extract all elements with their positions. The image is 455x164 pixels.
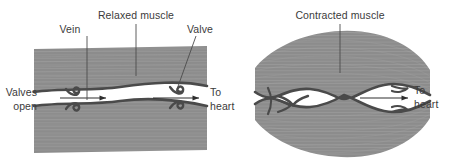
blood-flow-arrow	[360, 95, 408, 100]
valve-closed-distal	[392, 86, 408, 112]
figure-root: Relaxed muscle Vein Valve Valves open To…	[0, 0, 455, 164]
contracted-muscle-group: Contracted muscle To heart	[250, 9, 438, 157]
contracted-lower-muscle	[250, 95, 435, 157]
label-to-heart-right-line1: To	[414, 84, 425, 96]
contracted-upper-muscle	[250, 31, 435, 101]
label-vein: Vein	[60, 23, 81, 35]
label-valve: Valve	[187, 23, 213, 35]
label-contracted-muscle: Contracted muscle	[295, 9, 384, 21]
relaxed-upper-muscle	[30, 46, 212, 92]
vein-pinch-point	[338, 96, 350, 100]
blood-flow-arrow	[60, 95, 106, 100]
label-to-heart-left-line2: heart	[210, 100, 234, 112]
label-valves-open-line2: open	[13, 100, 37, 112]
relaxed-muscle-group: Relaxed muscle Vein Valve Valves open To…	[6, 9, 235, 153]
label-relaxed-muscle: Relaxed muscle	[98, 9, 174, 21]
label-to-heart-right-line2: heart	[414, 98, 438, 110]
vein-valve-diagram: Relaxed muscle Vein Valve Valves open To…	[0, 0, 455, 164]
label-to-heart-left-line1: To	[210, 86, 221, 98]
relaxed-lower-muscle	[30, 99, 212, 153]
label-valves-open-line1: Valves	[6, 86, 37, 98]
